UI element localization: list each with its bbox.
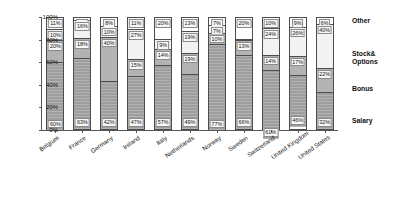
x-axis-tick-mark <box>190 130 191 133</box>
segment-value-label: 16% <box>75 22 90 31</box>
segment-salary: 61% <box>263 71 279 139</box>
legend-item-bonus[interactable]: Bonus <box>352 85 373 93</box>
segment-value-label: 24% <box>263 30 278 39</box>
segment-bonus: 13% <box>236 41 252 55</box>
segment-salary: 46% <box>290 76 306 127</box>
segment-value-label: 40% <box>317 26 332 35</box>
segment-stock-options: 40% <box>317 25 333 69</box>
segment-value-label: 10% <box>210 35 225 44</box>
segment-other: 13% <box>182 18 198 32</box>
segment-stock-options: 7% <box>209 26 225 34</box>
segment-salary: 49% <box>182 75 198 129</box>
segment-stock-options: 27% <box>128 30 144 60</box>
segment-value-label: 22% <box>317 70 332 79</box>
segment-stock-options: 24% <box>263 29 279 56</box>
bar-switzerland[interactable]: 10%24%14%61% <box>262 17 280 130</box>
segment-value-label: 15% <box>129 61 144 70</box>
segment-stock-options: 9% <box>155 40 171 50</box>
bar-germany[interactable]: 8%10%40%42% <box>100 17 118 130</box>
bar-belgium[interactable]: 11%10%20%60% <box>46 17 64 130</box>
segment-bonus: 14% <box>155 50 171 66</box>
segment-stock-options: 26% <box>290 28 306 57</box>
segment-bonus: 22% <box>317 69 333 93</box>
segment-value-label: 46% <box>290 116 305 125</box>
segment-bonus: 15% <box>128 60 144 77</box>
segment-salary: 42% <box>101 82 117 129</box>
segment-salary: 66% <box>236 56 252 129</box>
segment-value-label: 11% <box>48 19 62 28</box>
segment-value-label: 14% <box>156 51 171 60</box>
bar-united-states[interactable]: 6%40%22%32% <box>316 17 334 130</box>
segment-value-label: 20% <box>236 19 251 28</box>
segment-value-label: 20% <box>48 42 63 51</box>
segment-value-label: 19% <box>183 33 198 42</box>
x-axis-tick-mark <box>82 130 83 133</box>
segment-value-label: 40% <box>102 39 117 48</box>
segment-value-label: 9% <box>157 41 169 50</box>
segment-other: 7% <box>209 18 225 26</box>
bar-ireland[interactable]: 11%27%15%47% <box>127 17 145 130</box>
segment-bonus: 10% <box>209 34 225 45</box>
segment-value-label: 11% <box>129 19 143 28</box>
bar-italy[interactable]: 20%9%14%57% <box>154 17 172 130</box>
bar-sweden[interactable]: 20%13%66% <box>235 17 253 130</box>
x-axis-tick-mark <box>325 130 326 133</box>
segment-other: 9% <box>290 18 306 28</box>
segment-bonus: 18% <box>74 39 90 59</box>
chart-legend: OtherStock& OptionsBonusSalary <box>352 17 402 130</box>
segment-salary: 77% <box>209 45 225 130</box>
segment-value-label: 42% <box>102 118 117 127</box>
segment-value-label: 27% <box>129 31 144 40</box>
segment-other: 20% <box>236 18 252 40</box>
segment-stock-options: 10% <box>101 27 117 38</box>
segment-value-label: 63% <box>75 118 90 127</box>
segment-stock-options: 19% <box>182 32 198 53</box>
segment-other: 10% <box>263 18 279 29</box>
segment-value-label: 18% <box>75 40 90 49</box>
segment-value-label: 10% <box>102 28 117 37</box>
x-axis-tick-mark <box>217 130 218 133</box>
segment-salary: 32% <box>317 93 333 129</box>
x-axis-tick-mark <box>109 130 110 133</box>
segment-value-label: 13% <box>236 42 251 51</box>
segment-other: 20% <box>155 18 171 40</box>
segment-value-label: 10% <box>263 19 278 28</box>
y-axis-tick-label: 60% <box>24 58 58 65</box>
segment-bonus: 40% <box>101 38 117 82</box>
segment-value-label: 9% <box>292 19 304 28</box>
segment-other: 8% <box>101 18 117 27</box>
y-axis-tick-label: 20% <box>24 103 58 110</box>
legend-item-other[interactable]: Other <box>352 17 370 25</box>
segment-value-label: 26% <box>290 29 305 38</box>
segment-salary: 60% <box>47 63 63 130</box>
legend-item-stock-options[interactable]: Stock& Options <box>352 50 378 65</box>
segment-other: 11% <box>128 18 144 30</box>
segment-value-label: 77% <box>210 120 225 129</box>
segment-value-label: 19% <box>183 55 198 64</box>
segment-value-label: 14% <box>263 57 278 66</box>
bar-norway[interactable]: 7%7%10%77% <box>208 17 226 130</box>
segment-value-label: 57% <box>156 118 171 127</box>
segment-value-label: 66% <box>236 118 251 127</box>
segment-bonus: 14% <box>263 56 279 72</box>
y-axis-tick-label: 40% <box>24 81 58 88</box>
segment-value-label: 32% <box>317 118 332 127</box>
bar-netherlands[interactable]: 13%19%19%49% <box>181 17 199 130</box>
segment-bonus: 19% <box>182 54 198 75</box>
segment-other: 6% <box>317 18 333 25</box>
y-axis-tick-label: 80% <box>24 36 58 43</box>
bar-france[interactable]: 3%16%18%63% <box>73 17 91 130</box>
y-axis-tick-label: 100% <box>24 13 58 20</box>
x-axis-tick-mark <box>163 130 164 133</box>
stacked-bar-chart: 11%10%20%60%3%16%18%63%8%10%40%42%11%27%… <box>0 0 402 222</box>
x-axis-tick-mark <box>298 130 299 133</box>
segment-bonus: 17% <box>290 57 306 76</box>
y-axis-tick-label: 0% <box>24 126 58 133</box>
legend-item-salary[interactable]: Salary <box>352 117 372 125</box>
plot-area: 11%10%20%60%3%16%18%63%8%10%40%42%11%27%… <box>41 17 338 131</box>
segment-salary: 57% <box>155 66 171 129</box>
segment-salary: 63% <box>74 59 90 129</box>
segment-value-label: 17% <box>290 58 305 67</box>
bar-united-kingdom[interactable]: 9%26%17%46% <box>289 17 307 130</box>
x-axis-tick-mark <box>271 130 272 133</box>
